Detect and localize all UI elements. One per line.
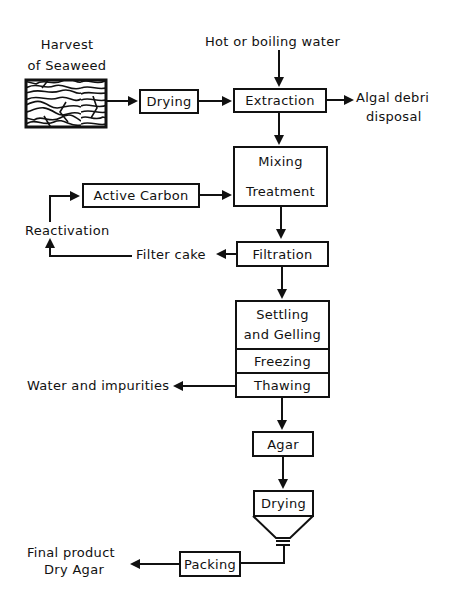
water-impurities-label: Water and impurities xyxy=(27,378,169,394)
step-active-carbon: Active Carbon xyxy=(82,183,200,208)
step-mixing-label: Mixing xyxy=(258,154,302,169)
step-settling-label: Settling xyxy=(256,305,309,325)
harvest-label-line2: of Seaweed xyxy=(22,58,112,74)
step-settling-gelling: Settling and Gelling xyxy=(235,300,330,350)
step-gelling-label: and Gelling xyxy=(244,325,321,345)
step-freezing: Freezing xyxy=(235,348,330,374)
step-agar: Agar xyxy=(252,431,314,457)
step-mixing-treatment: Mixing Treatment xyxy=(233,146,328,207)
algal-debri-label-line2: disposal xyxy=(366,109,422,125)
step-filtration-label: Filtration xyxy=(252,247,312,262)
step-freezing-label: Freezing xyxy=(254,354,311,369)
step-filtration: Filtration xyxy=(236,241,329,267)
step-drying-2-label: Drying xyxy=(261,496,306,511)
step-packing-label: Packing xyxy=(184,557,236,572)
seaweed-harvest-image xyxy=(26,80,106,127)
step-packing: Packing xyxy=(179,551,241,577)
final-product-label-line2: Dry Agar xyxy=(44,562,104,578)
step-drying-1-label: Drying xyxy=(147,94,192,109)
step-treatment-label: Treatment xyxy=(246,184,315,199)
step-agar-label: Agar xyxy=(267,437,299,452)
water-input-label: Hot or boiling water xyxy=(205,34,340,50)
step-active-carbon-label: Active Carbon xyxy=(93,188,188,203)
step-thawing: Thawing xyxy=(235,372,330,398)
final-product-label-line1: Final product xyxy=(27,545,115,561)
algal-debri-label-line1: Algal debri xyxy=(356,90,429,106)
step-extraction-label: Extraction xyxy=(245,93,314,108)
step-drying-1: Drying xyxy=(139,89,199,114)
reactivation-label: Reactivation xyxy=(25,223,109,239)
step-extraction: Extraction xyxy=(233,88,327,113)
step-thawing-label: Thawing xyxy=(254,378,311,393)
filter-cake-label: Filter cake xyxy=(136,247,206,263)
step-drying-2-hopper: Drying xyxy=(253,490,314,517)
harvest-label-line1: Harvest xyxy=(32,37,102,53)
